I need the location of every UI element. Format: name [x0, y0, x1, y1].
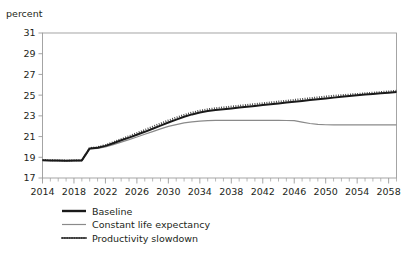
y-tick-label: 19: [23, 152, 35, 163]
x-tick-label: 2042: [251, 186, 275, 197]
x-tick-label: 2058: [377, 186, 401, 197]
y-tick-label: 27: [23, 69, 35, 80]
x-tick-label: 2030: [156, 186, 180, 197]
y-axis-title: percent: [6, 8, 43, 19]
chart-legend: BaselineConstant life expectancyProducti…: [62, 206, 210, 244]
legend-label: Constant life expectancy: [92, 219, 210, 230]
y-tick-label: 21: [23, 131, 35, 142]
series-line-productivity-slowdown: [43, 91, 397, 161]
x-tick-label: 2022: [93, 186, 117, 197]
x-tick-label: 2018: [62, 186, 86, 197]
y-tick-label: 17: [23, 172, 35, 183]
x-axis-ticks: 2014201820222026203020342038204220462050…: [30, 178, 400, 197]
x-tick-label: 2034: [188, 186, 212, 197]
y-tick-label: 23: [23, 110, 35, 121]
legend-label: Baseline: [92, 206, 132, 217]
x-tick-label: 2054: [345, 186, 369, 197]
y-tick-label: 31: [23, 27, 35, 38]
y-tick-label: 25: [23, 90, 35, 101]
x-tick-label: 2014: [30, 186, 54, 197]
series-line-constant-life-expectancy: [43, 120, 397, 161]
x-tick-label: 2046: [282, 186, 306, 197]
x-tick-label: 2026: [125, 186, 149, 197]
y-tick-label: 29: [23, 48, 35, 59]
series-line-baseline: [43, 92, 397, 161]
series-group: [43, 91, 397, 161]
line-chart: 1719212325272931 20142018202220262030203…: [0, 0, 411, 253]
x-tick-label: 2038: [219, 186, 243, 197]
plot-area: [43, 33, 397, 178]
x-tick-label: 2050: [314, 186, 338, 197]
legend-label: Productivity slowdown: [92, 233, 198, 244]
plot-frame: [43, 33, 397, 178]
y-axis-ticks: 1719212325272931: [23, 27, 42, 183]
